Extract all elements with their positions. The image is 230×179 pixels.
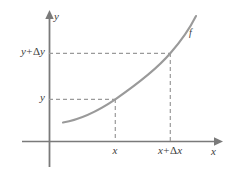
guide-lines-group — [49, 53, 171, 141]
x-axis-tick-label-x-plus-delta-x: x+Δx — [142, 145, 198, 156]
tick-x-upper-variable: x — [177, 144, 182, 156]
axes-group — [22, 10, 223, 167]
y-axis-tick-label-y-plus-delta-y: y+Δy — [0, 46, 45, 57]
math-figure: y x f y+Δy y x x+Δx — [0, 0, 230, 179]
x-axis-tick-label-x: x — [95, 145, 135, 156]
tick-x-upper-operator: + — [163, 144, 170, 156]
function-curve — [63, 16, 196, 123]
curve-group — [63, 16, 196, 123]
x-axis-label: x — [211, 146, 216, 157]
tick-y-upper-operator: + — [26, 45, 33, 57]
y-axis-tick-label-y: y — [0, 92, 45, 103]
y-axis-arrowhead — [45, 10, 53, 19]
y-axis-label: y — [54, 11, 59, 22]
curve-label-f: f — [189, 28, 192, 38]
tick-y-upper-variable: y — [40, 45, 45, 57]
